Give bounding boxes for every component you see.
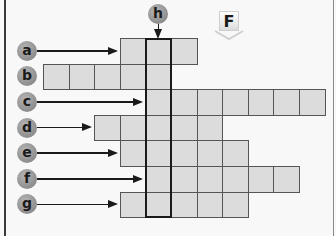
grid-cell[interactable] — [248, 166, 275, 193]
grid-cell[interactable] — [120, 192, 147, 219]
column-arrow-icon — [158, 24, 160, 36]
row-label-badge: e — [17, 143, 37, 163]
grid-cell[interactable] — [197, 166, 224, 193]
row-label-badge: b — [17, 66, 37, 86]
grid-cell[interactable] — [171, 192, 198, 219]
grid-cell[interactable] — [197, 140, 224, 167]
arrow-right-icon — [37, 50, 116, 52]
grid-cell[interactable] — [145, 38, 172, 65]
grid-cell[interactable] — [145, 140, 172, 167]
arrow-right-icon — [37, 152, 116, 154]
puzzle-marker: F — [219, 11, 239, 41]
grid-cell[interactable] — [145, 192, 172, 219]
grid-cell[interactable] — [273, 166, 300, 193]
grid-cell[interactable] — [171, 166, 198, 193]
grid-cell[interactable] — [120, 115, 147, 142]
grid-cell[interactable] — [171, 115, 198, 142]
row-label-badge: f — [17, 169, 37, 189]
grid-cell[interactable] — [145, 115, 172, 142]
grid-cell[interactable] — [171, 89, 198, 116]
grid-cell[interactable] — [222, 192, 249, 219]
crossword-diagram: abcdefg h F — [0, 0, 336, 236]
grid-cell[interactable] — [120, 38, 147, 65]
grid-cell[interactable] — [145, 89, 172, 116]
grid-cell[interactable] — [94, 115, 121, 142]
grid-cell[interactable] — [69, 64, 96, 91]
grid-cell[interactable] — [171, 140, 198, 167]
grid-cell[interactable] — [171, 38, 198, 65]
grid-cell[interactable] — [94, 64, 121, 91]
grid-cell[interactable] — [273, 89, 300, 116]
row-label-badge: d — [17, 118, 37, 138]
grid-cell[interactable] — [120, 140, 147, 167]
arrow-right-icon — [37, 204, 116, 206]
row-label-badge: c — [17, 92, 37, 112]
grid-cell[interactable] — [197, 89, 224, 116]
grid-cell[interactable] — [222, 166, 249, 193]
grid-cell[interactable] — [120, 64, 147, 91]
marker-label: F — [219, 11, 239, 31]
grid-cell[interactable] — [197, 115, 224, 142]
column-label-badge: h — [148, 4, 168, 24]
right-border — [333, 0, 334, 236]
arrow-right-icon — [37, 127, 90, 129]
chevron-down-icon — [214, 29, 244, 41]
grid-cell[interactable] — [145, 64, 172, 91]
grid-cell[interactable] — [43, 64, 70, 91]
grid-cell[interactable] — [145, 166, 172, 193]
grid-cell[interactable] — [197, 192, 224, 219]
grid-cell[interactable] — [222, 140, 249, 167]
grid-cell[interactable] — [222, 89, 249, 116]
grid-cell[interactable] — [299, 89, 326, 116]
arrow-right-icon — [37, 178, 141, 180]
arrow-right-icon — [37, 101, 141, 103]
grid-cell[interactable] — [248, 89, 275, 116]
row-label-badge: a — [17, 41, 37, 61]
row-label-badge: g — [17, 194, 37, 214]
left-border — [4, 0, 6, 236]
